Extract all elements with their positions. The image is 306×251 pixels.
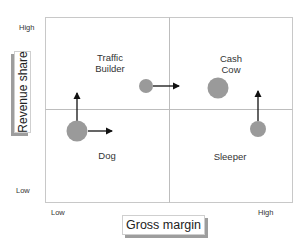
x-axis-title: Gross margin [126, 218, 201, 232]
y-axis-low-label: Low [16, 187, 30, 195]
cash-cow-line1: Cash [220, 53, 242, 64]
y-axis-title-box: Revenue share [14, 51, 31, 133]
cash-cow-circle [208, 78, 229, 99]
traffic-builder-line2: Builder [95, 63, 125, 74]
quadrant-label-cash-cow: Cash Cow [220, 53, 242, 75]
dog-circle [67, 121, 88, 142]
x-axis-low-label: Low [51, 209, 65, 217]
x-axis-title-box: Gross margin [122, 215, 205, 235]
traffic-builder-circle [139, 79, 153, 93]
x-axis-high-label: High [258, 209, 273, 217]
cash-cow-bubble [208, 78, 229, 99]
dog-line1: Dog [98, 150, 115, 161]
quadrant-label-sleeper: Sleeper [214, 151, 247, 162]
y-axis-title: Revenue share [17, 51, 29, 132]
sleeper-line1: Sleeper [214, 151, 247, 162]
traffic-builder-line1: Traffic [95, 52, 125, 63]
quadrant-diagram: High Low Low High Traffic Builder Cash C… [0, 0, 306, 251]
quadrant-label-dog: Dog [98, 150, 115, 161]
quadrant-label-traffic-builder: Traffic Builder [95, 52, 125, 74]
cash-cow-line2: Cow [220, 64, 242, 75]
sleeper-circle [250, 121, 266, 137]
y-axis-high-label: High [19, 24, 34, 32]
